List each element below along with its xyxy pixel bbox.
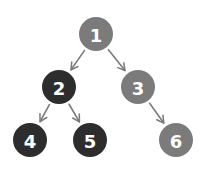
tree-diagram: 123456 [0, 0, 201, 169]
tree-node-3: 3 [121, 70, 155, 104]
node-label: 5 [84, 131, 97, 152]
edge-arrow-1-3 [108, 50, 125, 71]
nodes-layer: 123456 [13, 17, 193, 157]
edge-arrow-2-4 [40, 105, 49, 122]
node-label: 1 [90, 25, 103, 46]
node-label: 4 [24, 131, 37, 152]
node-label: 6 [170, 131, 183, 152]
tree-node-2: 2 [42, 70, 76, 104]
tree-node-6: 6 [159, 123, 193, 157]
node-label: 2 [53, 78, 66, 99]
tree-node-4: 4 [13, 123, 47, 157]
edge-arrow-3-6 [150, 103, 164, 123]
node-label: 3 [132, 78, 145, 99]
edge-arrow-2-5 [69, 104, 79, 122]
edge-arrow-1-2 [71, 50, 85, 69]
tree-node-5: 5 [73, 123, 107, 157]
tree-node-1: 1 [79, 17, 113, 51]
